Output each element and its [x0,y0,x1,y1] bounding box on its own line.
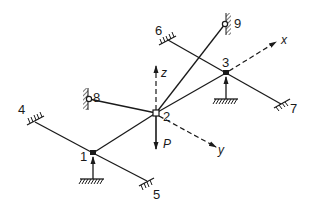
node-label-7: 7 [290,101,297,116]
x-axis [229,42,276,71]
support-3 [213,77,238,104]
node-label-8: 8 [93,90,100,105]
support-5 [139,178,154,190]
node-label-9: 9 [234,16,241,31]
member-1-2 [93,113,156,153]
support-9 [222,13,231,35]
node-label-5: 5 [153,187,160,202]
member-6-3 [168,40,226,73]
support-8 [83,88,92,110]
member-1-5 [93,153,147,181]
axis-label-x: x [280,33,288,47]
node-label-2: 2 [163,109,170,124]
axis-label-y: y [217,143,225,157]
node-label-4: 4 [18,102,25,117]
axis-label-z: z [160,66,167,80]
support-4 [27,112,44,125]
frame-diagram: 1 2 3 4 5 6 7 8 9 z x y P [0,0,313,211]
node-label-3: 3 [222,55,229,70]
joint-1 [90,150,96,155]
joint-2 [153,110,159,116]
joint-3 [223,70,229,75]
node-label-6: 6 [155,23,162,38]
node-label-1: 1 [80,149,87,164]
load-label-p: P [163,137,171,151]
